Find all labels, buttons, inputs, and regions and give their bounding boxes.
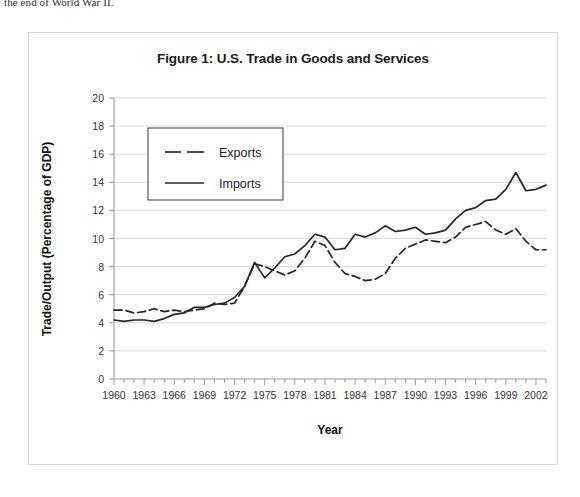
page-body-text-fragment: the end of World War II.	[4, 0, 114, 8]
x-axis-tick-label: 1987	[374, 389, 398, 401]
x-axis-tick-label: 1999	[494, 389, 518, 401]
y-axis-tick-label: 20	[92, 92, 104, 104]
y-axis-tick-label: 10	[92, 233, 104, 245]
x-axis-tick-label: 1963	[132, 389, 156, 401]
x-axis-tick-label: 1981	[313, 389, 337, 401]
y-axis-tick-label: 8	[98, 261, 104, 273]
x-axis-tick-label: 1969	[193, 389, 217, 401]
y-axis-tick-label: 18	[92, 120, 104, 132]
y-axis-tick-label: 6	[98, 289, 104, 301]
x-axis-tick-label: 1975	[253, 389, 277, 401]
y-axis-tick-label: 2	[98, 345, 104, 357]
y-axis-tick-label: 14	[92, 176, 104, 188]
x-axis-tick-label: 1996	[464, 389, 488, 401]
x-axis-tick-label: 1972	[223, 389, 247, 401]
trade-line-chart: 02468101214161820 1960196319661969197219…	[29, 33, 559, 466]
x-axis-tick-group	[114, 379, 546, 385]
y-axis-tick-label: 16	[92, 148, 104, 160]
legend-label-exports: Exports	[219, 146, 261, 160]
x-axis-tick-label: 1960	[102, 389, 126, 401]
y-axis-tick-label: 4	[98, 317, 104, 329]
legend-box	[148, 128, 283, 200]
x-axis-tick-label: 1990	[404, 389, 428, 401]
data-line-exports	[114, 222, 546, 313]
y-axis-tick-group	[109, 98, 114, 379]
y-axis-tick-label-group: 02468101214161820	[92, 92, 104, 385]
x-axis-tick-label: 1993	[434, 389, 458, 401]
x-axis-tick-label: 1984	[343, 389, 367, 401]
y-axis-tick-label: 12	[92, 204, 104, 216]
x-axis-tick-label-group: 1960196319661969197219751978198119841987…	[102, 389, 547, 401]
y-axis-title: Trade/Output (Percentage of GDP)	[40, 142, 54, 337]
x-axis-tick-label: 1978	[283, 389, 307, 401]
chart-legend: Exports Imports	[148, 128, 283, 200]
legend-label-imports: Imports	[219, 177, 261, 191]
x-axis-tick-label: 2002	[524, 389, 548, 401]
y-axis-tick-label: 0	[98, 373, 104, 385]
chart-plot-container: 02468101214161820 1960196319661969197219…	[29, 33, 559, 466]
x-axis-tick-label: 1966	[163, 389, 187, 401]
x-axis-title: Year	[317, 423, 343, 437]
figure-frame: Figure 1: U.S. Trade in Goods and Servic…	[28, 32, 558, 465]
